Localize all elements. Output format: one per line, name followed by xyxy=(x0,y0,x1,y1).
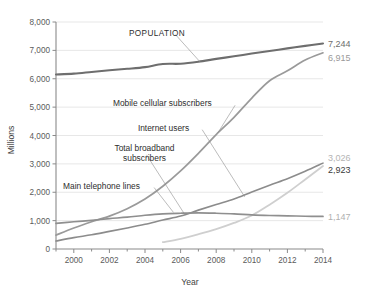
series-label-internet-users: Internet users xyxy=(138,123,189,133)
x-tick-label-2010: 2010 xyxy=(243,256,262,265)
series-line-total-broadband-subscribers xyxy=(163,166,323,242)
end-value-label-main-telephone-lines: 1,147 xyxy=(328,212,351,222)
y-tick-label-8000: 8,000 xyxy=(30,18,51,27)
series-line-main-telephone-lines xyxy=(56,213,323,224)
x-tick-label-2012: 2012 xyxy=(278,256,297,265)
x-axis-title: Year xyxy=(181,277,199,287)
x-tick-label-2014: 2014 xyxy=(314,256,333,265)
end-value-label-population: 7,244 xyxy=(328,39,351,49)
gridlines-group xyxy=(56,22,323,221)
y-tick-label-4000: 4,000 xyxy=(30,132,51,141)
series-label-mobile-cellular-subscribers: Mobile cellular subscribers xyxy=(113,98,212,108)
series-line-internet-users xyxy=(56,163,323,241)
x-tick-label-2006: 2006 xyxy=(171,256,190,265)
y-tick-label-0: 0 xyxy=(45,245,50,254)
series-label-main-telephone-lines: Main telephone lines xyxy=(63,181,140,191)
series-lines-group xyxy=(56,43,323,242)
leader-line-main-telephone-lines xyxy=(154,188,173,213)
series-annotations-group: POPULATIONMobile cellular subscribersInt… xyxy=(63,29,212,191)
population-technology-line-chart: 01,0002,0003,0004,0005,0006,0007,0008,00… xyxy=(0,0,375,289)
chart-canvas: 01,0002,0003,0004,0005,0006,0007,0008,00… xyxy=(0,0,375,289)
y-axis-title: Millions xyxy=(6,126,16,155)
end-value-labels-group: 7,2446,9153,0262,9231,147 xyxy=(328,39,351,222)
y-tick-label-7000: 7,000 xyxy=(30,46,51,55)
series-label-total-broadband-subscribers: Total broadbandsubscribers xyxy=(114,143,174,162)
y-tick-label-2000: 2,000 xyxy=(30,188,51,197)
y-tick-label-6000: 6,000 xyxy=(30,75,51,84)
end-value-label-total-broadband-subscribers: 2,923 xyxy=(328,165,351,175)
series-line-population xyxy=(56,43,323,74)
x-tick-label-2004: 2004 xyxy=(136,256,155,265)
y-tick-label-1000: 1,000 xyxy=(30,217,51,226)
series-label-population: POPULATION xyxy=(129,29,185,38)
leader-line-population xyxy=(175,35,200,62)
end-value-label-internet-users: 3,026 xyxy=(328,153,351,163)
axes-group xyxy=(53,22,324,253)
y-tick-labels-group: 01,0002,0003,0004,0005,0006,0007,0008,00… xyxy=(30,18,51,254)
x-tick-label-2000: 2000 xyxy=(65,256,84,265)
x-tick-labels-group: 20002002200420062008201020122014 xyxy=(65,256,333,265)
series-line-mobile-cellular-subscribers xyxy=(56,53,323,235)
x-tick-label-2008: 2008 xyxy=(207,256,226,265)
y-tick-label-5000: 5,000 xyxy=(30,103,51,112)
x-tick-label-2002: 2002 xyxy=(100,256,119,265)
y-tick-label-3000: 3,000 xyxy=(30,160,51,169)
leader-line-internet-users xyxy=(202,130,245,197)
end-value-label-mobile-cellular-subscribers: 6,915 xyxy=(328,53,351,63)
